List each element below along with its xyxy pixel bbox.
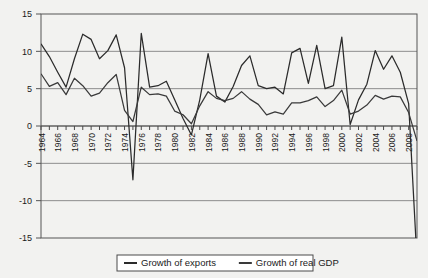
x-axis-tick-label: 2002 <box>354 133 364 152</box>
x-axis-tick-label: 1986 <box>220 133 230 152</box>
y-axis-tick-label: -10 <box>19 196 32 206</box>
legend-label: Growth of real GDP <box>256 257 339 268</box>
y-axis-tick-label: 15 <box>22 9 32 19</box>
x-axis-tick-label: 2004 <box>371 133 381 152</box>
y-axis-tick-label: -5 <box>24 159 32 169</box>
y-axis-tick-label: -15 <box>19 233 32 243</box>
x-axis-tick-label: 1998 <box>321 133 331 152</box>
y-axis-tick-label: 10 <box>22 47 32 57</box>
x-axis-labels: 1964196619681970197219741976197819801982… <box>37 133 415 152</box>
x-axis-tick-label: 1968 <box>70 133 80 152</box>
x-axis-tick-label: 1966 <box>53 133 63 152</box>
x-axis-tick-label: 2006 <box>387 133 397 152</box>
x-axis-tick-label: 1964 <box>37 133 47 152</box>
chart-legend: Growth of exportsGrowth of real GDP <box>117 255 339 271</box>
x-axis-tick-label: 1974 <box>120 133 130 152</box>
x-axis-tick-label: 1994 <box>287 133 297 152</box>
x-axis-tick-label: 1972 <box>103 133 113 152</box>
x-axis-tick-label: 2000 <box>337 133 347 152</box>
x-axis-tick-label: 1988 <box>237 133 247 152</box>
x-axis-tick-label: 1990 <box>254 133 264 152</box>
x-axis-tick-label: 1996 <box>304 133 314 152</box>
y-axis-tick-label: 5 <box>27 84 32 94</box>
x-axis-tick-label: 1982 <box>187 133 197 152</box>
y-axis-tick-label: 0 <box>27 121 32 131</box>
x-axis-tick-label: 1978 <box>153 133 163 152</box>
x-axis-tick-label: 1970 <box>87 133 97 152</box>
x-axis-tick-label: 1980 <box>170 133 180 152</box>
legend-label: Growth of exports <box>141 257 216 268</box>
chart-container: 151050-5-10-15 1964196619681970197219741… <box>0 0 428 278</box>
x-axis-tick-label: 1984 <box>204 133 214 152</box>
x-axis-tick-label: 1976 <box>137 133 147 152</box>
x-axis-tick-label: 2008 <box>404 133 414 152</box>
line-chart: 151050-5-10-15 1964196619681970197219741… <box>0 0 428 278</box>
x-axis-tick-label: 1992 <box>270 133 280 152</box>
